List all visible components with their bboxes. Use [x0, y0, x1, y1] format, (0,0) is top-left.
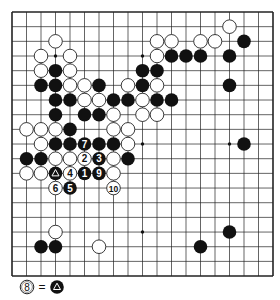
black-stone — [165, 49, 179, 63]
white-stone — [49, 123, 63, 137]
legend-equals: = — [38, 280, 45, 294]
black-stone — [63, 93, 77, 107]
black-stone — [150, 64, 164, 78]
white-stone — [92, 93, 106, 107]
white-stone — [121, 123, 135, 137]
black-stone — [92, 79, 106, 93]
move-number: 5 — [67, 183, 73, 194]
black-stone: 9 — [92, 167, 106, 181]
legend-black-stone-triangle — [50, 280, 64, 294]
black-stone — [63, 137, 77, 151]
go-board-diagram: 7234196510 — [0, 0, 280, 300]
star-point-icon — [141, 54, 144, 57]
black-stone — [136, 79, 150, 93]
move-number: 7 — [82, 139, 88, 150]
black-stone — [49, 64, 63, 78]
white-stone — [78, 79, 92, 93]
black-stone — [223, 225, 237, 239]
black-stone — [49, 137, 63, 151]
white-stone — [34, 167, 48, 181]
black-stone — [20, 152, 34, 166]
move-number: 9 — [96, 168, 102, 179]
white-stone: 2 — [78, 152, 92, 166]
white-stone — [121, 79, 135, 93]
black-stone — [136, 64, 150, 78]
black-stone — [34, 152, 48, 166]
white-stone — [107, 152, 121, 166]
black-stone — [165, 93, 179, 107]
white-stone — [63, 64, 77, 78]
move-number: 2 — [82, 153, 88, 164]
white-stone — [194, 35, 208, 49]
black-stone — [49, 240, 63, 254]
move-number: 6 — [53, 183, 59, 194]
black-stone — [34, 79, 48, 93]
black-stone — [150, 93, 164, 107]
move-number: 3 — [96, 153, 102, 164]
black-stone — [92, 108, 106, 122]
white-stone — [63, 79, 77, 93]
white-stone — [92, 240, 106, 254]
black-stone — [194, 49, 208, 63]
white-stone — [34, 64, 48, 78]
black-stone — [121, 93, 135, 107]
black-stone — [223, 79, 237, 93]
white-stone — [63, 49, 77, 63]
white-stone — [49, 152, 63, 166]
white-stone: 6 — [49, 181, 63, 195]
black-stone — [34, 240, 48, 254]
white-stone: 4 — [63, 167, 77, 181]
white-stone — [49, 35, 63, 49]
black-stone — [49, 108, 63, 122]
star-point-icon — [228, 142, 231, 145]
white-stone — [34, 49, 48, 63]
black-stone: 3 — [92, 152, 106, 166]
black-stone — [49, 167, 63, 181]
white-stone — [20, 167, 34, 181]
black-stone — [179, 49, 193, 63]
black-stone — [49, 93, 63, 107]
black-stone — [107, 93, 121, 107]
white-stone — [150, 108, 164, 122]
move-number: 10 — [109, 184, 119, 194]
white-stone — [34, 123, 48, 137]
black-stone — [63, 123, 77, 137]
white-stone — [107, 167, 121, 181]
star-point-icon — [54, 54, 57, 57]
white-stone — [63, 152, 77, 166]
black-stone — [92, 137, 106, 151]
white-stone — [20, 123, 34, 137]
white-stone — [150, 49, 164, 63]
white-stone — [78, 93, 92, 107]
black-stone — [237, 35, 251, 49]
white-stone — [121, 137, 135, 151]
white-stone — [136, 93, 150, 107]
black-stone — [223, 49, 237, 63]
black-stone — [78, 108, 92, 122]
black-stone — [107, 137, 121, 151]
black-stone — [49, 79, 63, 93]
legend-move-number: 8 — [24, 282, 30, 293]
black-stone — [237, 137, 251, 151]
black-stone: 5 — [63, 181, 77, 195]
black-stone: 1 — [78, 167, 92, 181]
white-stone — [107, 108, 121, 122]
move-number: 1 — [82, 168, 88, 179]
black-stone: 7 — [78, 137, 92, 151]
white-stone — [208, 35, 222, 49]
black-stone — [194, 240, 208, 254]
white-stone — [150, 35, 164, 49]
star-point-icon — [141, 230, 144, 233]
white-stone — [49, 225, 63, 239]
white-stone — [136, 108, 150, 122]
black-stone — [121, 152, 135, 166]
white-stone — [165, 35, 179, 49]
white-stone — [223, 20, 237, 34]
move-number: 4 — [67, 168, 73, 179]
white-stone: 10 — [107, 181, 121, 195]
white-stone — [34, 137, 48, 151]
star-point-icon — [141, 142, 144, 145]
white-stone — [150, 79, 164, 93]
move-legend: 8 = — [19, 278, 79, 296]
white-stone — [107, 123, 121, 137]
